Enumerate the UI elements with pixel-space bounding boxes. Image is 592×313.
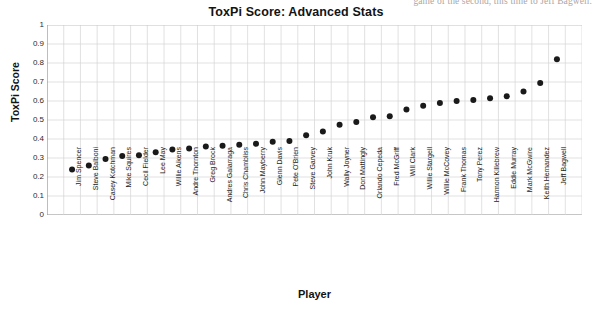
x-axis-tick-label: Keith Hernandez [543,147,550,217]
x-axis-tick-label: Frank Thomas [460,147,467,217]
x-axis-tick-label: Casey Kotchman [109,147,116,217]
x-axis-tick-label: Tony Perez [476,147,483,217]
chart-title: ToxPi Score: Advanced Stats [0,5,592,19]
data-point [253,141,259,147]
x-axis-tick-label: Steve Garvey [309,147,316,217]
data-point [403,107,409,113]
x-axis-tick-label: Wally Joyner [343,147,350,217]
x-axis-tick-label: John Kruk [326,147,333,217]
x-axis-tick-label: Greg Brock [209,147,216,217]
x-axis-tick-label: Mark McGwire [526,147,533,217]
x-axis-tick-label: Steve Balboni [92,147,99,217]
data-point [487,95,493,101]
x-axis-tick-label: John Mayberry [259,147,266,217]
y-axis-tick-label: 0.9 [4,40,44,48]
data-point [353,119,359,125]
x-axis-tick-label: Mike Squires [125,147,132,217]
data-point [420,103,426,109]
data-point [320,128,326,134]
y-axis-tick-label: 0.1 [4,192,44,200]
x-axis-tick-label: Will Clark [409,147,416,217]
y-axis-tick-label: 0.6 [4,97,44,105]
x-axis-tick-label: Jeff Bagwell [560,147,567,217]
chart-page: game of the second, this time to Jeff Ba… [0,0,592,313]
x-axis-tick-label: Andre Thornton [192,147,199,217]
data-point [220,143,226,149]
x-axis-tick-label: Harmon Killebrew [493,147,500,217]
data-point [454,98,460,104]
x-axis-tick-labels: Jim SpencerSteve BalboniCasey KotchmanMi… [47,217,582,287]
data-point [86,163,92,169]
x-axis-tick-label: Andres Galarraga [226,147,233,217]
data-point [286,138,292,144]
x-axis-tick-label: Glenn Davis [276,147,283,217]
x-axis-tick-label: Cecil Fielder [142,147,149,217]
y-axis-tick-label: 0.2 [4,173,44,181]
x-axis-tick-label: Fred McGriff [393,147,400,217]
data-point [370,114,376,120]
x-axis-tick-label: Lee May [159,147,166,217]
y-axis-tick-label: 0.4 [4,135,44,143]
x-axis-tick-label: Don Mattingly [359,147,366,217]
y-axis-tick-label: 0.3 [4,154,44,162]
x-axis-tick-label: Willie Aikens [175,147,182,217]
y-axis-tick-label: 0.8 [4,59,44,67]
y-axis-tick-label: 1 [4,21,44,29]
y-axis-tick-labels: 10.90.80.70.60.50.40.30.20.10 [0,25,44,215]
x-axis-tick-label: Orlando Cepeda [376,147,383,217]
data-point [153,149,159,155]
y-axis-tick-label: 0.7 [4,78,44,86]
data-point [470,97,476,103]
data-point [554,56,560,62]
x-axis-tick-label: Willie McCovey [443,147,450,217]
data-point [387,113,393,119]
data-point [203,144,209,150]
data-point [437,100,443,106]
data-point [303,132,309,138]
x-axis-tick-label: Willie Stargell [426,147,433,217]
data-point [520,89,526,95]
y-axis-tick-label: 0 [4,211,44,219]
data-point [270,139,276,145]
x-axis-title: Player [47,288,582,300]
x-axis-tick-label: Pete O'Brien [292,147,299,217]
data-point [537,80,543,86]
data-point [504,93,510,99]
data-point [337,122,343,128]
x-axis-tick-label: Chris Chambliss [242,147,249,217]
data-point [103,156,109,162]
x-axis-tick-label: Jim Spencer [75,147,82,217]
x-axis-tick-label: Eddie Murray [510,147,517,217]
y-axis-tick-label: 0.5 [4,116,44,124]
